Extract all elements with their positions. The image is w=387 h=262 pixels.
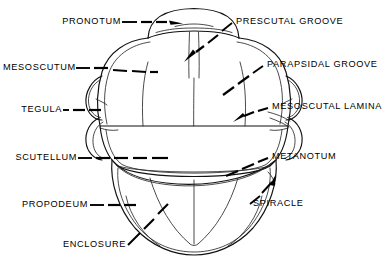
label-mesoscutal-lamina: MESOSCUTAL LAMINA	[272, 102, 382, 111]
anatomy-figure: PRONOTUM MESOSCUTUM TEGULA SCUTELLUM PRO…	[0, 0, 387, 262]
tegula-left-shape	[86, 76, 118, 160]
label-prescutal-groove: PRESCUTAL GROOVE	[236, 17, 343, 26]
scutellum-shape	[100, 126, 288, 177]
label-mesoscutum: MESOSCUTUM	[3, 63, 75, 72]
label-scutellum: SCUTELLUM	[10, 153, 77, 162]
label-spiracle: SPIRACLE	[253, 199, 304, 208]
tegula-right-shape	[270, 76, 302, 160]
label-parapsidal-groove: PARAPSIDAL GROOVE	[267, 60, 378, 69]
pronotum-shape	[148, 9, 239, 39]
label-pronotum: PRONOTUM	[55, 17, 121, 26]
label-tegula: TEGULA	[10, 105, 62, 114]
leader-enclosure	[128, 204, 168, 245]
leader-parapsidal-groove	[223, 66, 263, 95]
anatomy-diagram-svg	[0, 0, 387, 262]
label-propodeum: PROPODEUM	[20, 200, 88, 209]
label-metanotum: METANOTUM	[272, 152, 336, 161]
leader-mesoscutal-lamina	[233, 108, 268, 122]
enclosure-shape	[150, 178, 238, 246]
prescutal-groove-shape	[189, 32, 199, 126]
label-enclosure: ENCLOSURE	[58, 240, 126, 249]
